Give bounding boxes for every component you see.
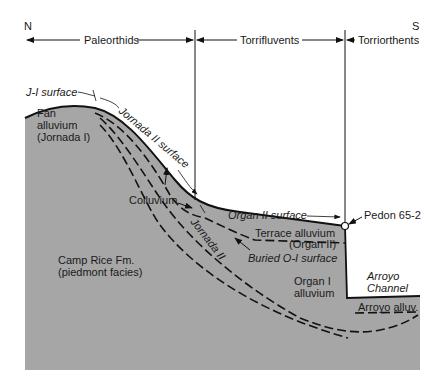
cross-section-diagram: N S Paleorthids Torrifluvents Torriorthe… [0, 0, 442, 388]
label-organ2-surface: Organ II surface [228, 209, 307, 221]
label-organ1-2: alluvium [294, 287, 334, 299]
label-organ1-1: Organ I [294, 275, 331, 287]
label-arroyo-2: Channel [367, 282, 409, 294]
label-pedon: Pedon 65-2 [364, 209, 421, 221]
label-fan-2: alluvium [37, 119, 77, 131]
north-label: N [24, 20, 32, 32]
zone-torrifluvents: Torrifluvents [240, 34, 300, 46]
label-buried-o1-surface: Buried O-I surface [248, 252, 337, 264]
label-arroyo-alluv: Arroyo alluv. [358, 301, 418, 313]
label-fan-1: Fan [37, 107, 56, 119]
label-colluvium: Colluvium [129, 194, 177, 206]
pedon-marker [342, 223, 349, 230]
ground-body [25, 106, 420, 370]
label-camp-rice-2: (piedmont facies) [58, 266, 142, 278]
label-j1-surface: J-I surface [25, 86, 77, 98]
zone-torriorthents: Torriorthents [358, 34, 420, 46]
zone-paleorthids: Paleorthids [84, 34, 140, 46]
label-arroyo-1: Arroyo [366, 270, 399, 282]
label-camp-rice-1: Camp Rice Fm. [58, 254, 134, 266]
label-fan-3: (Jornada I) [37, 131, 90, 143]
label-terrace-2: (Organ II) [289, 238, 336, 250]
south-label: S [412, 20, 419, 32]
